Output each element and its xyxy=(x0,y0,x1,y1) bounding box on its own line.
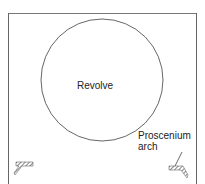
proscenium-arch-label-line2: arch xyxy=(138,141,191,152)
stage-frame xyxy=(9,13,197,184)
stage-diagram xyxy=(0,0,205,184)
proscenium-arch-left xyxy=(14,162,33,175)
revolve-label: Revolve xyxy=(77,80,113,91)
leader-line xyxy=(175,152,182,166)
proscenium-arch-label: Proscenium arch xyxy=(138,130,191,152)
proscenium-arch-label-line1: Proscenium xyxy=(138,130,191,141)
proscenium-arch-right xyxy=(169,166,188,178)
